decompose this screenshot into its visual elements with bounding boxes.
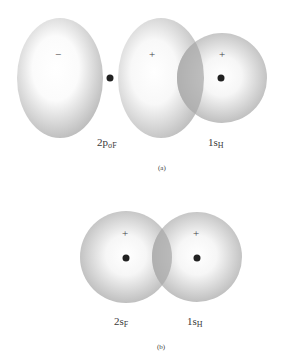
label-2p-sigma-f: 2pσF <box>97 136 117 150</box>
fluorine-nucleus-b <box>123 255 130 262</box>
label-1s-h: 1sH <box>208 136 224 150</box>
label-2s-f: 2sF <box>114 315 128 329</box>
figure-b <box>80 211 242 303</box>
caption-a: (a) <box>158 164 166 172</box>
label-main: 1s <box>187 315 197 327</box>
label-main: 1s <box>208 136 218 148</box>
label-main: 2p <box>97 136 108 148</box>
fluorine-nucleus <box>107 75 114 82</box>
label-main: 2s <box>114 315 124 327</box>
label-sub: F <box>124 320 128 329</box>
label-sub: σF <box>108 141 117 150</box>
positive-sign-p: + <box>149 49 155 60</box>
positive-sign-h-b: + <box>193 228 199 239</box>
p-orbital-negative-lobe <box>17 18 103 138</box>
figure-a <box>17 18 267 138</box>
label-sub: H <box>218 141 224 150</box>
hydrogen-nucleus <box>218 75 225 82</box>
label-1s-h-b: 1sH <box>187 315 203 329</box>
positive-sign-f-b: + <box>122 228 128 239</box>
label-sub: H <box>197 320 203 329</box>
orbital-overlap-diagram <box>0 0 282 359</box>
positive-sign-h: + <box>219 49 225 60</box>
hydrogen-nucleus-b <box>194 255 201 262</box>
negative-sign: − <box>55 49 61 60</box>
caption-b: (b) <box>157 343 165 351</box>
